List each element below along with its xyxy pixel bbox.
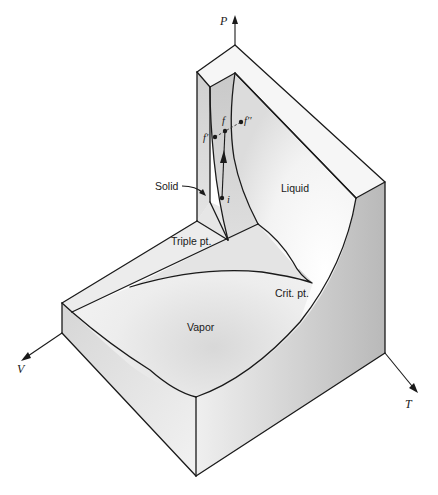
t-axis-line xyxy=(385,353,412,386)
point-f-double-prime xyxy=(239,120,243,124)
v-axis-label: V xyxy=(17,362,26,376)
pvt-surface-diagram: f′ f f′′ i P V T Solid Liquid Triple pt.… xyxy=(0,0,438,495)
label-triple-point: Triple pt. xyxy=(171,235,211,247)
p-axis-label: P xyxy=(219,14,228,28)
label-f-double-prime: f′′ xyxy=(244,115,252,126)
point-i xyxy=(220,196,224,200)
point-f-prime xyxy=(213,135,217,139)
label-f-prime: f′ xyxy=(203,132,209,143)
label-liquid: Liquid xyxy=(281,182,309,194)
solid-column-front-face xyxy=(197,72,210,221)
label-i: i xyxy=(227,194,230,205)
label-critical-point: Crit. pt. xyxy=(275,287,309,299)
label-solid: Solid xyxy=(155,180,179,192)
point-f xyxy=(223,129,227,133)
v-axis-line xyxy=(28,333,62,356)
label-vapor: Vapor xyxy=(187,321,215,333)
p-axis-arrow-icon xyxy=(232,15,238,24)
v-axis-arrow-icon xyxy=(21,352,31,361)
t-axis-label: T xyxy=(405,397,413,411)
